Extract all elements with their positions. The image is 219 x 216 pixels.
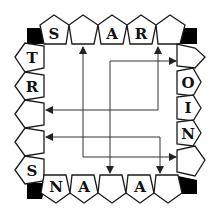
left-pentagon-3 [15, 100, 44, 128]
top-pentagon-5 [156, 15, 185, 44]
top-letter-3: A [105, 25, 118, 43]
bottom-pentagon-3 [98, 175, 126, 203]
left-letter-5: S [27, 162, 38, 180]
left-letter-2: R [26, 78, 39, 96]
corner-blocks [27, 28, 197, 199]
bottom-letter-4: A [133, 178, 146, 196]
right-letter-3: I [184, 99, 191, 117]
pentagon-ring-diagram: S A R T R S O I N N A A [0, 0, 219, 216]
arrows [46, 47, 176, 173]
top-letter-1: S [49, 25, 60, 43]
bottom-letter-2: A [77, 178, 90, 196]
right-letter-2: O [181, 74, 194, 92]
right-pentagon-1 [177, 44, 205, 68]
top-pentagon-2 [69, 15, 98, 44]
bottom-pentagon-5 [154, 175, 182, 203]
top-letter-4: R [135, 25, 148, 43]
bottom-letter-1: N [49, 178, 63, 196]
left-letter-1: T [26, 49, 38, 67]
right-pentagon-5 [177, 146, 205, 176]
left-pentagon-4 [15, 128, 44, 156]
diagram-canvas: S A R T R S O I N N A A [0, 0, 219, 216]
right-letter-4: N [181, 125, 195, 143]
